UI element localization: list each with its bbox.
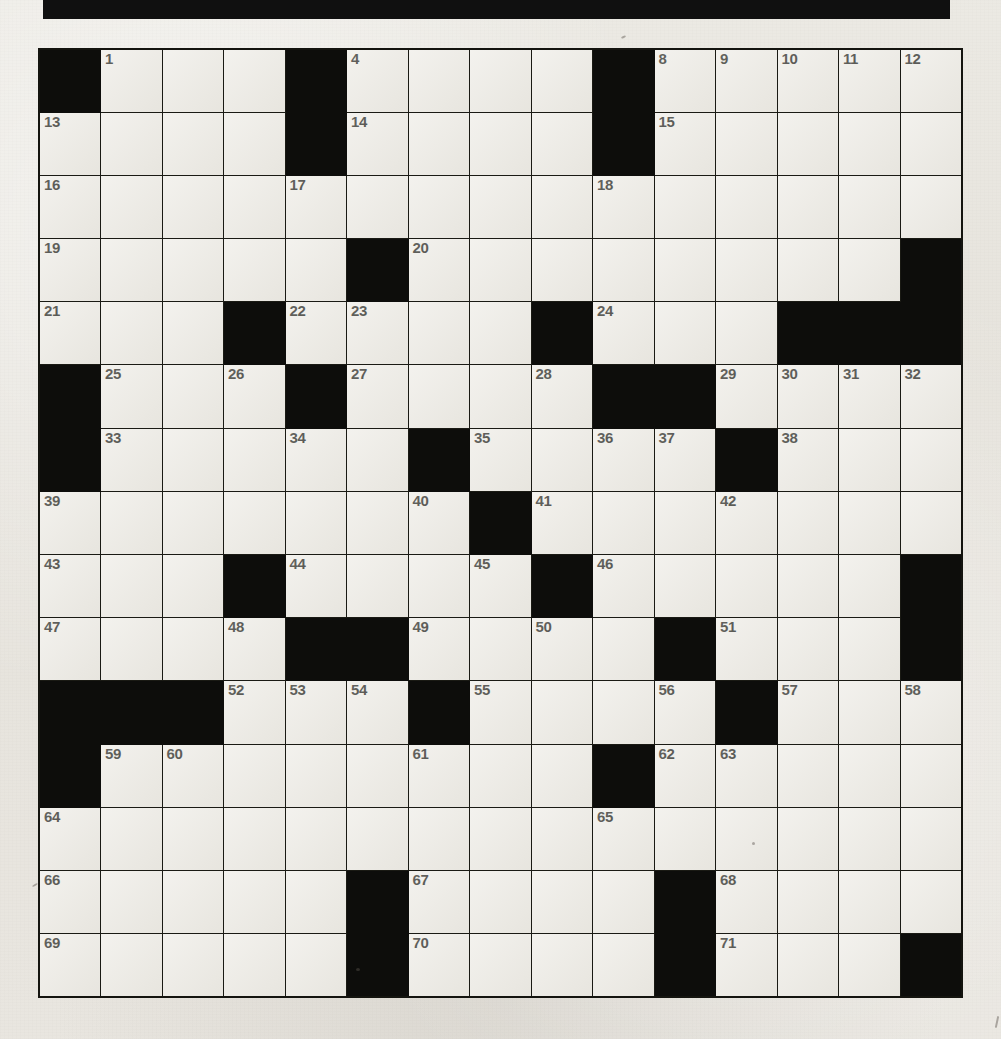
crossword-cell[interactable]: 51 bbox=[716, 618, 778, 681]
crossword-cell[interactable] bbox=[716, 807, 778, 870]
crossword-cell[interactable] bbox=[654, 555, 716, 618]
crossword-cell[interactable]: 56 bbox=[654, 681, 716, 744]
crossword-cell[interactable] bbox=[408, 807, 470, 870]
crossword-cell[interactable]: 64 bbox=[39, 807, 101, 870]
crossword-cell[interactable] bbox=[777, 807, 839, 870]
crossword-cell[interactable]: 35 bbox=[470, 428, 532, 491]
crossword-cell[interactable] bbox=[531, 744, 593, 807]
crossword-cell[interactable]: 18 bbox=[593, 175, 655, 238]
crossword-cell[interactable] bbox=[224, 239, 286, 302]
crossword-cell[interactable] bbox=[777, 491, 839, 554]
crossword-cell[interactable] bbox=[839, 618, 901, 681]
crossword-cell[interactable] bbox=[777, 239, 839, 302]
crossword-cell[interactable]: 15 bbox=[654, 112, 716, 175]
crossword-cell[interactable] bbox=[531, 934, 593, 997]
crossword-cell[interactable]: 44 bbox=[285, 555, 347, 618]
crossword-cell[interactable] bbox=[347, 555, 409, 618]
crossword-cell[interactable]: 33 bbox=[101, 428, 163, 491]
crossword-cell[interactable] bbox=[162, 618, 224, 681]
crossword-cell[interactable]: 65 bbox=[593, 807, 655, 870]
crossword-cell[interactable]: 60 bbox=[162, 744, 224, 807]
crossword-cell[interactable] bbox=[224, 491, 286, 554]
crossword-cell[interactable]: 48 bbox=[224, 618, 286, 681]
crossword-cell[interactable] bbox=[531, 49, 593, 112]
crossword-cell[interactable] bbox=[716, 239, 778, 302]
crossword-cell[interactable] bbox=[162, 807, 224, 870]
crossword-cell[interactable]: 38 bbox=[777, 428, 839, 491]
crossword-cell[interactable] bbox=[716, 175, 778, 238]
crossword-cell[interactable] bbox=[347, 491, 409, 554]
crossword-cell[interactable] bbox=[531, 112, 593, 175]
crossword-cell[interactable]: 26 bbox=[224, 365, 286, 428]
crossword-cell[interactable]: 67 bbox=[408, 870, 470, 933]
crossword-cell[interactable] bbox=[162, 302, 224, 365]
crossword-cell[interactable] bbox=[839, 555, 901, 618]
crossword-cell[interactable] bbox=[531, 870, 593, 933]
crossword-cell[interactable] bbox=[777, 112, 839, 175]
crossword-cell[interactable]: 13 bbox=[39, 112, 101, 175]
crossword-cell[interactable] bbox=[716, 112, 778, 175]
crossword-cell[interactable] bbox=[285, 239, 347, 302]
crossword-cell[interactable]: 66 bbox=[39, 870, 101, 933]
crossword-cell[interactable] bbox=[900, 175, 962, 238]
crossword-cell[interactable] bbox=[408, 555, 470, 618]
crossword-cell[interactable] bbox=[470, 365, 532, 428]
crossword-cell[interactable] bbox=[285, 934, 347, 997]
crossword-cell[interactable] bbox=[408, 175, 470, 238]
crossword-cell[interactable]: 30 bbox=[777, 365, 839, 428]
crossword-cell[interactable] bbox=[408, 49, 470, 112]
crossword-cell[interactable] bbox=[162, 365, 224, 428]
crossword-cell[interactable]: 17 bbox=[285, 175, 347, 238]
crossword-cell[interactable] bbox=[900, 744, 962, 807]
crossword-cell[interactable]: 1 bbox=[101, 49, 163, 112]
crossword-cell[interactable] bbox=[470, 239, 532, 302]
crossword-cell[interactable]: 37 bbox=[654, 428, 716, 491]
crossword-cell[interactable]: 24 bbox=[593, 302, 655, 365]
crossword-cell[interactable]: 34 bbox=[285, 428, 347, 491]
crossword-cell[interactable]: 12 bbox=[900, 49, 962, 112]
crossword-cell[interactable] bbox=[654, 491, 716, 554]
crossword-cell[interactable]: 28 bbox=[531, 365, 593, 428]
crossword-cell[interactable] bbox=[839, 428, 901, 491]
crossword-cell[interactable] bbox=[162, 49, 224, 112]
crossword-cell[interactable] bbox=[839, 112, 901, 175]
crossword-cell[interactable] bbox=[101, 870, 163, 933]
crossword-cell[interactable] bbox=[900, 112, 962, 175]
crossword-cell[interactable] bbox=[101, 555, 163, 618]
crossword-cell[interactable] bbox=[162, 870, 224, 933]
crossword-cell[interactable] bbox=[101, 302, 163, 365]
crossword-cell[interactable] bbox=[224, 807, 286, 870]
crossword-cell[interactable] bbox=[839, 744, 901, 807]
crossword-cell[interactable] bbox=[654, 302, 716, 365]
crossword-cell[interactable]: 16 bbox=[39, 175, 101, 238]
crossword-cell[interactable]: 9 bbox=[716, 49, 778, 112]
crossword-cell[interactable] bbox=[101, 618, 163, 681]
crossword-cell[interactable] bbox=[531, 175, 593, 238]
crossword-cell[interactable] bbox=[777, 870, 839, 933]
crossword-cell[interactable] bbox=[224, 175, 286, 238]
crossword-cell[interactable] bbox=[593, 870, 655, 933]
crossword-cell[interactable] bbox=[162, 175, 224, 238]
crossword-cell[interactable] bbox=[777, 175, 839, 238]
crossword-cell[interactable] bbox=[347, 175, 409, 238]
crossword-cell[interactable] bbox=[101, 239, 163, 302]
crossword-cell[interactable]: 25 bbox=[101, 365, 163, 428]
crossword-cell[interactable] bbox=[531, 428, 593, 491]
crossword-cell[interactable] bbox=[900, 428, 962, 491]
crossword-cell[interactable] bbox=[839, 807, 901, 870]
crossword-cell[interactable] bbox=[162, 428, 224, 491]
crossword-cell[interactable]: 10 bbox=[777, 49, 839, 112]
crossword-cell[interactable] bbox=[654, 239, 716, 302]
crossword-cell[interactable] bbox=[101, 807, 163, 870]
crossword-cell[interactable]: 61 bbox=[408, 744, 470, 807]
crossword-cell[interactable] bbox=[470, 302, 532, 365]
crossword-cell[interactable] bbox=[224, 744, 286, 807]
crossword-cell[interactable] bbox=[162, 491, 224, 554]
crossword-cell[interactable] bbox=[162, 555, 224, 618]
crossword-cell[interactable] bbox=[470, 175, 532, 238]
crossword-cell[interactable]: 22 bbox=[285, 302, 347, 365]
crossword-cell[interactable]: 59 bbox=[101, 744, 163, 807]
crossword-cell[interactable]: 27 bbox=[347, 365, 409, 428]
crossword-cell[interactable]: 31 bbox=[839, 365, 901, 428]
crossword-cell[interactable] bbox=[593, 934, 655, 997]
